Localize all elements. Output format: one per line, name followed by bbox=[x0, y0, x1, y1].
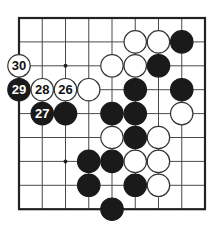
move-number: 27 bbox=[35, 106, 49, 121]
move-number: 30 bbox=[12, 58, 26, 73]
white-stone bbox=[171, 102, 193, 124]
white-stone-28: 28 bbox=[31, 79, 53, 101]
black-stone bbox=[54, 102, 76, 124]
black-stone bbox=[101, 198, 123, 220]
white-stone bbox=[147, 126, 169, 148]
black-stone bbox=[124, 126, 146, 148]
star-point bbox=[64, 64, 68, 68]
stones-layer: 3029282627 bbox=[8, 31, 193, 221]
black-stone bbox=[124, 174, 146, 196]
black-stone-27: 27 bbox=[31, 102, 53, 124]
white-stone-26: 26 bbox=[54, 79, 76, 101]
white-stone bbox=[147, 150, 169, 172]
star-point bbox=[64, 159, 68, 163]
move-number: 28 bbox=[35, 82, 49, 97]
white-stone bbox=[124, 31, 146, 53]
black-stone bbox=[147, 55, 169, 77]
white-stone bbox=[101, 126, 123, 148]
white-stone bbox=[78, 79, 100, 101]
white-stone bbox=[101, 55, 123, 77]
black-stone bbox=[124, 102, 146, 124]
black-stone bbox=[171, 79, 193, 101]
black-stone bbox=[78, 174, 100, 196]
black-stone bbox=[101, 150, 123, 172]
white-stone bbox=[147, 31, 169, 53]
black-stone bbox=[78, 150, 100, 172]
black-stone bbox=[101, 102, 123, 124]
white-stone bbox=[147, 174, 169, 196]
white-stone-30: 30 bbox=[8, 55, 30, 77]
white-stone bbox=[124, 55, 146, 77]
move-number: 29 bbox=[12, 82, 26, 97]
black-stone bbox=[124, 79, 146, 101]
black-stone-29: 29 bbox=[8, 79, 30, 101]
white-stone bbox=[124, 150, 146, 172]
go-board: 3029282627 bbox=[0, 0, 214, 227]
move-number: 26 bbox=[58, 82, 72, 97]
black-stone bbox=[171, 31, 193, 53]
